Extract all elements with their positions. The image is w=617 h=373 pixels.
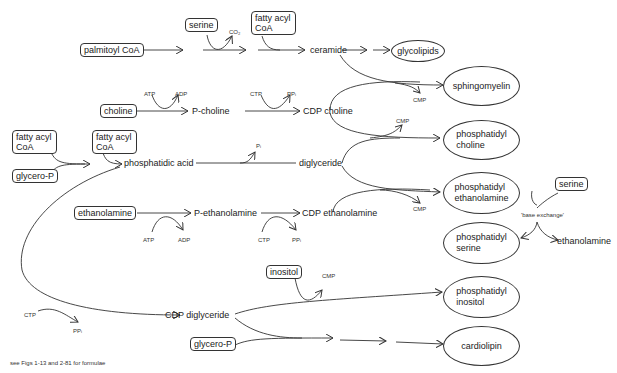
cmp-sphingomyelin-label: CMP [413,95,426,105]
phosphatidyl-serine-node: phosphatidylserine [443,222,520,264]
glycolipids-label: glycolipids [397,46,439,57]
cdp-choline-label: CDP choline [303,106,353,116]
choline-box: choline [100,104,137,118]
ethanolamine-out-label: ethanolamine [557,236,611,246]
fatty-acyl-coa-box-left: fatty acyl CoA [12,130,57,154]
pi-line1: phosphatidyl [456,286,507,297]
serine-box-top: serine [185,18,218,32]
p-ethanolamine-label: P-ethanolamine [194,208,257,218]
phosphatidyl-ethanolamine-node: phosphatidylethanolamine [443,172,520,214]
phosphatidyl-inositol-label: phosphatidylinositol [456,286,507,308]
phosphatidyl-choline-node: phosphatidylcholine [443,120,520,160]
phosphatidic-acid-label: phosphatidic acid [124,158,194,168]
base-exchange-label: 'base exchange' [521,210,564,220]
p-choline-label: P-choline [192,106,230,116]
glycero-p-box-bottom: glycero-P [190,337,236,351]
phosphatidyl-inositol-node: phosphatidylinositol [443,276,520,318]
pi-line2: inositol [456,297,507,308]
pi-label: Pᵢ [256,141,261,151]
cmp-pe-label: CMP [413,204,426,214]
sphingomyelin-label: sphingomyelin [453,81,511,92]
cardiolipin-node: cardiolipin [443,326,520,366]
serine-box-right: serine [555,177,588,191]
pe-line1: phosphatidyl [454,182,508,193]
co2-label: CO₂ [229,27,240,37]
adp-ethanolamine-label: ADP [178,235,190,245]
glycero-p-box-top: glycero-P [12,169,58,183]
cardiolipin-label: cardiolipin [461,341,502,352]
atp-choline-label: ATP [144,89,155,99]
diglyceride-label: diglyceride [299,158,342,168]
inositol-box: inositol [266,265,302,279]
sphingomyelin-node: sphingomyelin [443,66,520,106]
palmitoyl-coa-box: palmitoyl CoA [80,43,144,57]
phosphatidyl-serine-label: phosphatidylserine [456,232,507,254]
cmp-pc-label: CMP [396,116,409,126]
phosphatidyl-ethanolamine-label: phosphatidylethanolamine [454,182,508,204]
ppi-choline-label: PPᵢ [287,89,296,99]
phosphatidyl-choline-label: phosphatidylcholine [456,129,507,151]
ppi-cdp-diglyceride-label: PPᵢ [73,326,82,336]
atp-ethanolamine-label: ATP [143,235,154,245]
ps-line1: phosphatidyl [456,232,507,243]
pc-line1: phosphatidyl [456,129,507,140]
cmp-pi-label: CMP [322,271,335,281]
cdp-diglyceride-label: CDP diglyceride [165,310,229,320]
cdp-ethanolamine-label: CDP ethanolamine [302,208,377,218]
ctp-choline-label: CTP [250,89,262,99]
pc-line2: choline [456,140,507,151]
ctp-ethanolamine-label: CTP [258,235,270,245]
ctp-cdp-diglyceride-label: CTP [24,310,36,320]
ps-line2: serine [456,243,507,254]
adp-choline-label: ADP [175,89,187,99]
figure-caption: see Figs 1-13 and 2-81 for formulae [10,360,105,366]
ppi-ethanolamine-label: PPᵢ [292,235,301,245]
glycolipids-node: glycolipids [391,40,445,62]
ceramide-label: ceramide [310,45,347,55]
ethanolamine-box: ethanolamine [74,206,136,220]
pe-line2: ethanolamine [454,193,508,204]
fatty-acyl-coa-box-mid: fatty acyl CoA [92,130,137,154]
fatty-acyl-coa-box-top: fatty acyl CoA [251,11,296,35]
